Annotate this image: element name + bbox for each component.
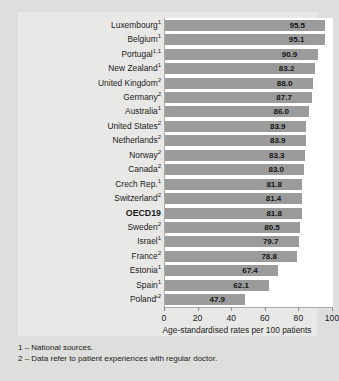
x-tick-label: 40 (226, 312, 236, 324)
plot-area: Luxembourg195.5Belgium195.1Portugal1,190… (164, 18, 333, 308)
footnote-marker: 2 (158, 91, 161, 97)
footnote-marker: 2 (158, 120, 161, 126)
category-label: Crech Rep.1 (115, 178, 161, 191)
footnote-marker: 2 (158, 192, 161, 198)
footnote-list: 1 – National sources. 2 – Data refer to … (18, 342, 318, 364)
bar-value-label: 47.9 (209, 293, 225, 306)
footnote-marker: 1 (158, 62, 161, 68)
bar-value-label: 67.4 (242, 264, 258, 277)
footnote-marker: 1 (158, 19, 161, 25)
bar-value-label: 83.0 (268, 163, 284, 176)
category-label: Luxembourg1 (111, 19, 161, 32)
footnote-marker: 1 (158, 236, 161, 242)
bar-value-label: 81.4 (266, 192, 282, 205)
bar-row: United States283.9 (165, 120, 333, 133)
x-tick-label: 100 (325, 312, 339, 324)
category-label: United Kingdom2 (98, 77, 161, 90)
category-label: Israel1 (137, 235, 161, 248)
bar (165, 236, 299, 247)
bar-value-label: 79.7 (263, 235, 279, 248)
bar-value-label: 83.9 (270, 120, 286, 133)
bar-row: Crech Rep.181.8 (165, 178, 333, 191)
bar-value-label: 86.0 (273, 105, 289, 118)
x-tick (198, 307, 199, 311)
footnote-marker: 1 (158, 265, 161, 271)
bar-value-label: 90.9 (282, 48, 298, 61)
bar-row: France278.8 (165, 250, 333, 263)
x-tick-label: 80 (294, 312, 304, 324)
category-label: Netherlands2 (112, 134, 161, 147)
bar-row: Portugal1,190.9 (165, 48, 333, 61)
category-label: OECD19 (126, 207, 161, 220)
category-label: Australia1 (125, 105, 161, 118)
bar (165, 251, 297, 262)
bar-value-label: 83.2 (279, 62, 295, 75)
x-axis-title: Age-standardised rates per 100 patients (153, 325, 321, 335)
bar-value-label: 81.8 (266, 207, 282, 220)
x-tick (164, 307, 165, 311)
bar-row: Israel179.7 (165, 235, 333, 248)
bar-row: Australia186.0 (165, 105, 333, 118)
bar-row: Netherlands283.9 (165, 134, 333, 147)
x-tick (298, 307, 299, 311)
bar-value-label: 95.5 (289, 19, 305, 32)
category-label: Germany2 (123, 91, 161, 104)
bar-row: Luxembourg195.5 (165, 19, 333, 32)
footnote-marker: 1 (158, 33, 161, 39)
bar-row: New Zealand183.2 (165, 62, 333, 75)
chart-frame: Luxembourg195.5Belgium195.1Portugal1,190… (18, 12, 317, 336)
bar-value-label: 83.3 (269, 149, 285, 162)
x-tick (265, 307, 266, 311)
footnote-marker: 2 (158, 221, 161, 227)
footnote-marker: 1,1 (153, 48, 161, 54)
footnote-2: 2 – Data refer to patient experiences wi… (18, 353, 318, 364)
footnote-marker: 1 (158, 178, 161, 184)
footnote-marker: 2 (158, 293, 161, 299)
bar-row: Germany287.7 (165, 91, 333, 104)
category-label: New Zealand1 (108, 62, 161, 75)
x-tick (231, 307, 232, 311)
x-tick-label: 0 (162, 312, 167, 324)
bar-row: United Kingdom288.0 (165, 77, 333, 90)
bar-value-label: 88.0 (277, 77, 293, 90)
bar-value-label: 62.1 (233, 279, 249, 292)
bar-row: Spain162.1 (165, 279, 333, 292)
footnote-marker: 2 (158, 77, 161, 83)
category-label: Estonia1 (130, 264, 161, 277)
bar-row: Sweden280.5 (165, 221, 333, 234)
bar (165, 294, 245, 305)
bar-value-label: 81.8 (266, 178, 282, 191)
bar-value-label: 83.9 (270, 134, 286, 147)
bar-row: Canada283.0 (165, 163, 333, 176)
category-label: Portugal1,1 (121, 48, 161, 61)
bar-row: Belgium195.1 (165, 33, 333, 46)
x-axis-tick-labels: 020406080100 (164, 312, 332, 324)
footnote-marker: 2 (158, 250, 161, 256)
bar (165, 265, 278, 276)
bar-row: Switzerland281.4 (165, 192, 333, 205)
category-label: United States2 (107, 120, 161, 133)
bar-row: Estonia167.4 (165, 264, 333, 277)
category-label: Switzerland2 (114, 192, 161, 205)
bar-value-label: 78.8 (261, 250, 277, 263)
bar-row: Norway283.3 (165, 149, 333, 162)
footnote-marker: 2 (158, 149, 161, 155)
bar-row: OECD1981.8 (165, 207, 333, 220)
category-label: Poland'2 (130, 293, 161, 306)
category-label: Norway2 (129, 149, 161, 162)
footnote-marker: 2 (158, 135, 161, 141)
footnote-marker: 2 (158, 163, 161, 169)
x-tick-label: 60 (260, 312, 270, 324)
category-label: Canada2 (128, 163, 161, 176)
category-label: Spain1 (136, 279, 161, 292)
bar-value-label: 87.7 (276, 91, 292, 104)
bar (165, 280, 269, 291)
category-label: Sweden2 (127, 221, 161, 234)
category-label: Belgium1 (127, 33, 161, 46)
footnote-1: 1 – National sources. (18, 342, 318, 353)
x-tick (332, 307, 333, 311)
category-label: France2 (132, 250, 161, 263)
x-tick-label: 20 (193, 312, 203, 324)
bar-value-label: 80.5 (264, 221, 280, 234)
